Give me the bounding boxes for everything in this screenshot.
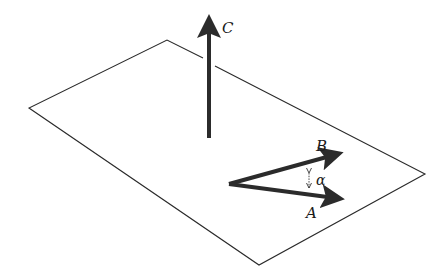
label-b: B [315, 137, 327, 155]
cross-product-diagram: C B α A [0, 0, 447, 272]
label-c: C [222, 19, 234, 37]
label-alpha: α [316, 172, 326, 188]
label-a: A [304, 204, 317, 222]
plane [29, 40, 425, 265]
